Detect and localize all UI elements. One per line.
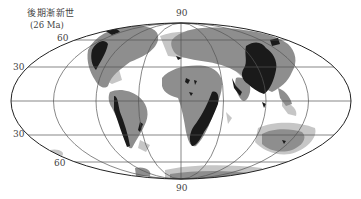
world-map — [0, 0, 361, 199]
label-lat-60-south: 60 — [54, 158, 65, 168]
label-lat-30-south: 30 — [13, 129, 24, 139]
landmasses — [50, 26, 315, 182]
label-bottom-90: 90 — [176, 183, 187, 193]
label-lat-60-north: 60 — [57, 33, 68, 43]
label-lat-30-north: 30 — [13, 62, 24, 72]
label-top-90: 90 — [176, 8, 187, 18]
